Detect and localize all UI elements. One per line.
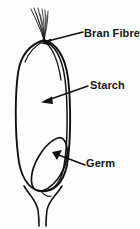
label-bran-fibre: Bran Fibre xyxy=(84,27,140,39)
label-starch: Starch xyxy=(90,79,125,91)
wheat-grain-diagram: Bran Fibre Starch Germ xyxy=(0,0,140,229)
leader-bran-fibre xyxy=(41,32,83,46)
leader-starch xyxy=(41,86,88,104)
brush-hairs-icon xyxy=(31,8,48,40)
label-germ: Germ xyxy=(86,157,115,169)
germ-oval xyxy=(31,138,67,191)
